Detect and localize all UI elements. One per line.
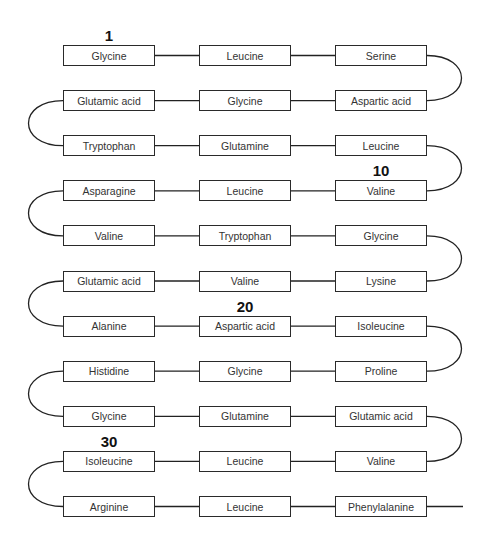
residue-box: Valine (63, 225, 155, 246)
residue-number-label: 1 (89, 27, 129, 44)
residue-number-label: 30 (89, 433, 129, 450)
residue-box: Leucine (199, 496, 291, 517)
residue-box: Leucine (199, 45, 291, 66)
residue-number-label: 20 (225, 298, 265, 315)
residue-box: Tryptophan (63, 135, 155, 156)
residue-box: Aspartic acid (335, 90, 427, 111)
residue-box: Glycine (63, 45, 155, 66)
residue-box: Glutamine (199, 135, 291, 156)
residue-box: Glutamic acid (63, 271, 155, 292)
residue-box: Asparagine (63, 180, 155, 201)
residue-box: Proline (335, 361, 427, 382)
residue-box: Tryptophan (199, 225, 291, 246)
residue-box: Valine (335, 451, 427, 472)
residue-box: Alanine (63, 316, 155, 337)
residue-number-label: 10 (361, 162, 401, 179)
residue-box: Glycine (199, 90, 291, 111)
residue-box: Glutamic acid (335, 406, 427, 427)
residue-box: Serine (335, 45, 427, 66)
residue-box: Glycine (335, 225, 427, 246)
residue-box: Glutamine (199, 406, 291, 427)
residue-box: Glycine (199, 361, 291, 382)
residue-box: Histidine (63, 361, 155, 382)
residue-box: Phenylalanine (335, 496, 427, 517)
residue-box: Leucine (199, 451, 291, 472)
residue-box: Leucine (335, 135, 427, 156)
residue-box: Leucine (199, 180, 291, 201)
residue-box: Isoleucine (63, 451, 155, 472)
residue-box: Aspartic acid (199, 316, 291, 337)
residue-box: Glycine (63, 406, 155, 427)
residue-box: Arginine (63, 496, 155, 517)
residue-box: Valine (335, 180, 427, 201)
residue-box: Lysine (335, 271, 427, 292)
residue-box: Isoleucine (335, 316, 427, 337)
residue-box: Valine (199, 271, 291, 292)
residue-box: Glutamic acid (63, 90, 155, 111)
